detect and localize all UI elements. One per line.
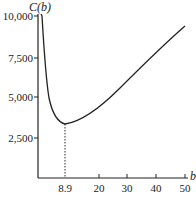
- y-axis-title: C(b): [29, 0, 51, 14]
- x-tick-label: 40: [151, 182, 163, 194]
- x-axis-title: b: [190, 169, 196, 183]
- chart: 10,000 7,500 5,000 2,500 8.9 20 30 40 50…: [0, 0, 196, 197]
- cost-curve: [41, 14, 185, 124]
- x-tick-label: 30: [122, 182, 134, 194]
- x-tick-label: 8.9: [58, 182, 72, 194]
- y-tick-label: 2,500: [8, 132, 33, 144]
- y-tick-label: 7,500: [8, 52, 33, 64]
- x-tick-label: 20: [94, 182, 106, 194]
- y-tick-label: 5,000: [8, 91, 33, 103]
- x-tick-label: 50: [180, 182, 192, 194]
